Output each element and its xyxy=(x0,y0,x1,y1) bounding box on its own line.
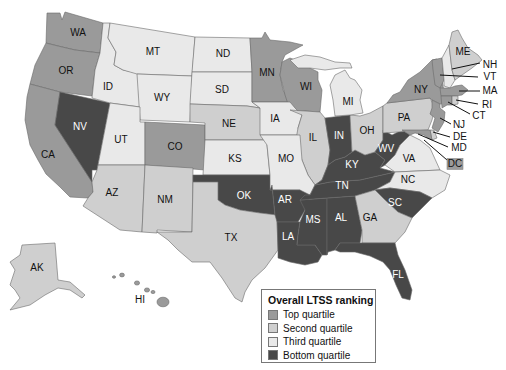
legend: Overall LTSS ranking Top quartile Second… xyxy=(261,289,376,363)
legend-item-bottom: Bottom quartile xyxy=(268,349,370,363)
state-label-ia: IA xyxy=(270,113,280,124)
state-shape-hi xyxy=(144,288,149,292)
us-choropleth-map: WAORCANVIDMTWYUTAZCONMNDSDNEKSOKTXMNWIIA… xyxy=(0,0,506,370)
state-shape-ak xyxy=(10,243,85,310)
state-shape-mi xyxy=(330,70,363,116)
state-shape-hi xyxy=(120,273,125,277)
state-label-me: ME xyxy=(456,46,471,57)
legend-item-top: Top quartile xyxy=(268,308,370,322)
state-label-nd: ND xyxy=(216,48,230,59)
state-label-nc: NC xyxy=(401,174,415,185)
state-label-mo: MO xyxy=(278,153,294,164)
state-label-co: CO xyxy=(168,141,183,152)
state-label-ak: AK xyxy=(30,262,44,273)
state-ak xyxy=(10,243,85,310)
state-label-ct: CT xyxy=(472,110,485,121)
state-label-ks: KS xyxy=(228,153,242,164)
state-label-ut: UT xyxy=(114,134,127,145)
state-label-ga: GA xyxy=(363,212,378,223)
state-label-wv: WV xyxy=(378,143,394,154)
legend-item-third: Third quartile xyxy=(268,335,370,349)
state-label-ne: NE xyxy=(222,118,236,129)
state-label-dc: DC xyxy=(448,158,462,169)
legend-swatch-top xyxy=(268,310,278,320)
state-label-tn: TN xyxy=(335,180,348,191)
legend-label: Third quartile xyxy=(283,336,341,347)
state-label-nm: NM xyxy=(157,194,173,205)
legend-swatch-bottom xyxy=(268,350,278,360)
state-label-nj: NJ xyxy=(453,119,465,130)
state-label-vt: VT xyxy=(484,71,497,82)
state-label-oh: OH xyxy=(360,125,375,136)
callout-line-ri xyxy=(456,100,478,104)
state-shape-ct xyxy=(441,96,452,108)
state-shape-hi xyxy=(151,290,155,293)
state-label-ma: MA xyxy=(483,85,498,96)
state-shape-hi xyxy=(134,281,139,285)
state-shape-hi xyxy=(157,297,169,307)
state-shape-mi xyxy=(290,55,352,70)
legend-label: Second quartile xyxy=(283,323,353,334)
state-label-az: AZ xyxy=(106,187,119,198)
legend-label: Bottom quartile xyxy=(283,350,350,361)
state-label-fl: FL xyxy=(392,269,404,280)
state-label-ok: OK xyxy=(237,190,252,201)
state-label-mt: MT xyxy=(146,46,160,57)
legend-swatch-third xyxy=(268,337,278,347)
state-label-tx: TX xyxy=(225,232,238,243)
state-label-id: ID xyxy=(103,81,113,92)
state-label-sc: SC xyxy=(388,197,402,208)
state-label-sd: SD xyxy=(215,84,229,95)
state-label-in: IN xyxy=(334,130,344,141)
state-label-wi: WI xyxy=(300,81,312,92)
legend-title: Overall LTSS ranking xyxy=(268,294,370,306)
state-label-nv: NV xyxy=(73,121,87,132)
state-label-al: AL xyxy=(335,212,348,223)
state-label-hi: HI xyxy=(135,294,145,305)
state-label-il: IL xyxy=(309,132,318,143)
state-ct xyxy=(441,96,452,108)
state-label-va: VA xyxy=(403,153,416,164)
legend-label: Top quartile xyxy=(283,309,335,320)
state-label-pa: PA xyxy=(398,112,411,123)
state-label-wy: WY xyxy=(154,92,170,103)
state-label-ky: KY xyxy=(345,159,359,170)
state-label-ri: RI xyxy=(482,99,492,110)
callout-line-ct xyxy=(448,102,470,114)
state-label-ms: MS xyxy=(306,214,321,225)
state-label-nh: NH xyxy=(483,59,497,70)
state-label-or: OR xyxy=(59,65,74,76)
state-shape-hi xyxy=(112,276,115,279)
state-label-la: LA xyxy=(282,231,295,242)
state-label-de: DE xyxy=(453,131,467,142)
legend-swatch-second xyxy=(268,323,278,333)
state-label-mi: MI xyxy=(342,96,353,107)
state-label-md: MD xyxy=(451,142,467,153)
state-label-ar: AR xyxy=(278,194,292,205)
state-label-ny: NY xyxy=(414,84,428,95)
state-label-ca: CA xyxy=(41,149,55,160)
state-label-mn: MN xyxy=(259,67,275,78)
legend-item-second: Second quartile xyxy=(268,322,370,336)
state-label-wa: WA xyxy=(70,27,86,38)
